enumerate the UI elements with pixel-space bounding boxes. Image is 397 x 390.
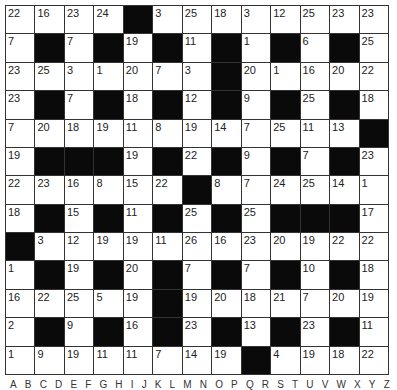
grid-cell[interactable]: 1 [6, 347, 34, 374]
grid-cell[interactable]: 18 [360, 261, 388, 288]
alphabet-letter[interactable]: D [55, 379, 62, 390]
grid-cell[interactable]: 23 [330, 6, 358, 33]
grid-cell[interactable]: 24 [271, 176, 299, 203]
grid-cell[interactable]: 11 [124, 205, 152, 232]
grid-cell[interactable]: 20 [242, 63, 270, 90]
grid-cell[interactable]: 25 [35, 63, 63, 90]
grid-cell[interactable]: 19 [65, 347, 93, 374]
alphabet-letter[interactable]: M [183, 379, 191, 390]
grid-cell[interactable]: 7 [65, 91, 93, 118]
alphabet-letter[interactable]: I [131, 379, 134, 390]
grid-cell[interactable]: 25 [301, 91, 329, 118]
grid-cell[interactable]: 5 [94, 290, 122, 317]
alphabet-letter[interactable]: F [85, 379, 91, 390]
grid-cell[interactable]: 22 [35, 290, 63, 317]
grid-cell[interactable]: 8 [94, 176, 122, 203]
grid-cell[interactable]: 24 [94, 6, 122, 33]
grid-cell[interactable]: 23 [65, 6, 93, 33]
alphabet-letter[interactable]: E [70, 379, 77, 390]
grid-cell[interactable]: 11 [124, 347, 152, 374]
alphabet-letter[interactable]: A [10, 379, 17, 390]
grid-cell[interactable]: 3 [183, 63, 211, 90]
grid-cell[interactable]: 11 [124, 120, 152, 147]
grid-cell[interactable]: 12 [65, 233, 93, 260]
grid-cell[interactable]: 25 [271, 120, 299, 147]
grid-cell[interactable]: 16 [65, 176, 93, 203]
grid-cell[interactable]: 18 [124, 91, 152, 118]
alphabet-letter[interactable]: O [215, 379, 223, 390]
grid-cell[interactable]: 3 [65, 63, 93, 90]
grid-cell[interactable]: 20 [271, 233, 299, 260]
grid-cell[interactable]: 25 [65, 290, 93, 317]
grid-cell[interactable]: 22 [360, 63, 388, 90]
grid-cell[interactable]: 25 [301, 6, 329, 33]
alphabet-letter[interactable]: C [40, 379, 47, 390]
grid-cell[interactable]: 17 [360, 205, 388, 232]
alphabet-letter[interactable]: V [322, 379, 329, 390]
grid-cell[interactable]: 2 [6, 318, 34, 345]
grid-cell[interactable]: 10 [301, 261, 329, 288]
grid-cell[interactable]: 21 [271, 290, 299, 317]
grid-cell[interactable]: 18 [242, 290, 270, 317]
grid-cell[interactable]: 7 [6, 120, 34, 147]
alphabet-letter[interactable]: B [25, 379, 32, 390]
grid-cell[interactable]: 20 [212, 290, 240, 317]
grid-cell[interactable]: 1 [242, 34, 270, 61]
grid-cell[interactable]: 19 [212, 347, 240, 374]
grid-cell[interactable]: 16 [124, 318, 152, 345]
grid-cell[interactable]: 16 [301, 63, 329, 90]
grid-cell[interactable]: 8 [153, 120, 181, 147]
grid-cell[interactable]: 22 [360, 347, 388, 374]
grid-cell[interactable]: 23 [35, 176, 63, 203]
alphabet-letter[interactable]: T [292, 379, 298, 390]
alphabet-letter[interactable]: U [306, 379, 313, 390]
alphabet-letter[interactable]: L [170, 379, 176, 390]
grid-cell[interactable]: 22 [330, 233, 358, 260]
grid-cell[interactable]: 1 [6, 261, 34, 288]
alphabet-letter[interactable]: S [277, 379, 284, 390]
grid-cell[interactable]: 9 [35, 347, 63, 374]
grid-cell[interactable]: 12 [271, 6, 299, 33]
grid-cell[interactable]: 11 [153, 233, 181, 260]
alphabet-letter[interactable]: R [262, 379, 269, 390]
grid-cell[interactable]: 23 [242, 233, 270, 260]
grid-cell[interactable]: 7 [153, 347, 181, 374]
grid-cell[interactable]: 14 [183, 347, 211, 374]
grid-cell[interactable]: 23 [183, 318, 211, 345]
alphabet-letter[interactable]: X [354, 379, 361, 390]
grid-cell[interactable]: 19 [124, 148, 152, 175]
grid-cell[interactable]: 7 [153, 63, 181, 90]
grid-cell[interactable]: 9 [65, 318, 93, 345]
alphabet-letter[interactable]: Q [246, 379, 254, 390]
grid-cell[interactable]: 19 [65, 261, 93, 288]
grid-cell[interactable]: 7 [242, 176, 270, 203]
grid-cell[interactable]: 20 [330, 63, 358, 90]
alphabet-letter[interactable]: N [200, 379, 207, 390]
grid-cell[interactable]: 19 [94, 120, 122, 147]
alphabet-letter[interactable]: H [115, 379, 122, 390]
grid-cell[interactable]: 23 [360, 148, 388, 175]
grid-cell[interactable]: 25 [301, 176, 329, 203]
grid-cell[interactable]: 22 [6, 176, 34, 203]
grid-cell[interactable]: 25 [242, 205, 270, 232]
grid-cell[interactable]: 7 [301, 148, 329, 175]
grid-cell[interactable]: 7 [242, 261, 270, 288]
grid-cell[interactable]: 13 [330, 120, 358, 147]
grid-cell[interactable]: 9 [242, 148, 270, 175]
grid-cell[interactable]: 16 [35, 6, 63, 33]
alphabet-letter[interactable]: W [336, 379, 345, 390]
grid-cell[interactable]: 20 [330, 290, 358, 317]
grid-cell[interactable]: 18 [212, 6, 240, 33]
grid-cell[interactable]: 20 [124, 63, 152, 90]
grid-cell[interactable]: 7 [6, 34, 34, 61]
grid-cell[interactable]: 7 [65, 34, 93, 61]
grid-cell[interactable]: 6 [301, 34, 329, 61]
grid-cell[interactable]: 22 [6, 6, 34, 33]
grid-cell[interactable]: 11 [360, 318, 388, 345]
grid-cell[interactable]: 18 [330, 347, 358, 374]
grid-cell[interactable]: 19 [124, 34, 152, 61]
grid-cell[interactable]: 3 [242, 6, 270, 33]
grid-cell[interactable]: 25 [183, 6, 211, 33]
grid-cell[interactable]: 15 [124, 176, 152, 203]
grid-cell[interactable]: 1 [94, 63, 122, 90]
